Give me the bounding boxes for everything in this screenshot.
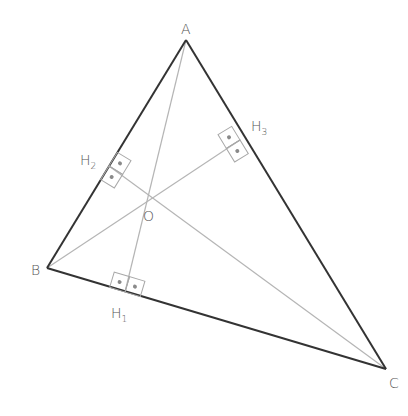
foot-label-H2-main: H (80, 152, 91, 168)
foot-label-H1: H1 (111, 305, 127, 324)
foot-label-H3-main: H (251, 118, 262, 134)
foot-label-H3-sub: 3 (262, 127, 268, 137)
foot-label-H1-main: H (111, 305, 122, 321)
right-angle-marker-H3 (218, 126, 248, 162)
side-BC (47, 268, 386, 369)
foot-label-H1-sub: 1 (122, 314, 128, 324)
altitude-A-H1 (125, 40, 186, 292)
foot-label-H2: H2 (80, 152, 96, 171)
altitude-B-H3 (47, 140, 240, 268)
orthocenter-label-O: O (143, 208, 154, 224)
vertex-label-A: A (181, 21, 191, 37)
triangle-sides (47, 40, 386, 369)
foot-label-H3: H3 (251, 118, 267, 137)
vertex-label-C: C (389, 375, 399, 391)
orthocenter-diagram: A B C O H1 H2 H3 (0, 0, 408, 416)
foot-label-H2-sub: 2 (91, 161, 97, 171)
altitude-C-H2 (109, 166, 386, 369)
vertex-label-B: B (31, 262, 40, 278)
right-angle-marker-H2 (101, 152, 131, 188)
side-CA (186, 40, 386, 369)
right-angle-marker-H1 (110, 272, 145, 296)
